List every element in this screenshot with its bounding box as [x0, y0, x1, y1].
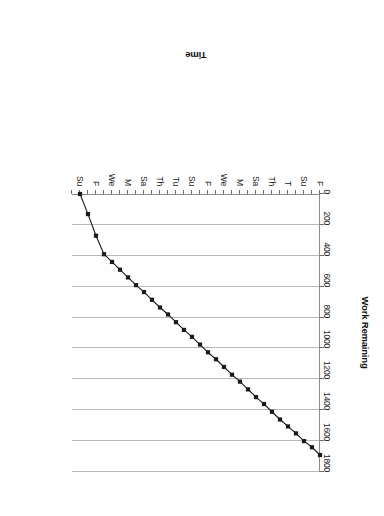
data-point-marker: [134, 283, 138, 287]
value-axis-title: Work Remaining: [358, 194, 372, 472]
category-axis-tick-label: Su: [299, 176, 309, 186]
data-point-marker: [126, 275, 130, 279]
value-axis-tick-label: 400: [322, 242, 332, 256]
data-point-marker: [246, 387, 250, 391]
category-axis-tick-label: Tu: [171, 177, 181, 186]
category-axis-tick-label: Su: [187, 176, 197, 186]
data-point-marker: [318, 453, 322, 457]
value-axis-tick-label: 1400: [322, 392, 332, 410]
category-axis-tick-label: T: [283, 181, 293, 186]
series-line: [80, 194, 320, 455]
category-axis-tick-label: F: [315, 181, 325, 186]
category-axis-title: Time: [72, 50, 320, 61]
data-point-marker: [254, 395, 258, 399]
value-axis-tick-label: 800: [322, 304, 332, 318]
category-axis-tick-label: Th: [267, 176, 277, 186]
category-axis-tick-label: We: [107, 174, 117, 186]
value-axis-tick-label: 1800: [322, 454, 332, 472]
data-point-marker: [230, 373, 234, 377]
data-point-marker: [286, 424, 290, 428]
category-axis-tick-label: M: [123, 179, 133, 186]
data-point-marker: [142, 290, 146, 294]
data-point-marker: [86, 212, 90, 216]
data-point-marker: [78, 192, 82, 196]
data-point-marker: [182, 328, 186, 332]
data-point-marker: [206, 350, 210, 354]
data-point-marker: [174, 320, 178, 324]
data-point-marker: [166, 312, 170, 316]
category-axis-tick-label: Su: [75, 176, 85, 186]
category-axis-tick-label: Sa: [251, 176, 261, 186]
category-axis-tick-label: We: [219, 174, 229, 186]
category-axis-tick-label: Sa: [139, 176, 149, 186]
data-point-marker: [102, 252, 106, 256]
data-point-marker: [198, 342, 202, 346]
rotated-figure-container: 020040060080010001200140016001800 FSuTTh…: [0, 0, 384, 516]
data-point-marker: [118, 268, 122, 272]
value-axis-tick-label: 1000: [322, 330, 332, 348]
data-point-marker: [294, 431, 298, 435]
category-axis-tick-label: F: [91, 181, 101, 186]
burndown-series: [72, 194, 320, 472]
category-axis-tick-label: F: [203, 181, 213, 186]
data-point-marker: [310, 445, 314, 449]
value-axis-tick-label: 1200: [322, 361, 332, 379]
scanned-page: 020040060080010001200140016001800 FSuTTh…: [0, 0, 384, 516]
data-point-marker: [262, 402, 266, 406]
data-point-marker: [302, 439, 306, 443]
data-point-marker: [270, 410, 274, 414]
category-axis-tick-label: M: [235, 179, 245, 186]
data-point-marker: [238, 380, 242, 384]
data-point-marker: [158, 305, 162, 309]
plot-area: 020040060080010001200140016001800 FSuTTh…: [72, 194, 320, 472]
category-axis-title-text: Time: [185, 50, 206, 61]
data-point-marker: [110, 260, 114, 264]
data-point-marker: [94, 234, 98, 238]
burndown-chart: 020040060080010001200140016001800 FSuTTh…: [0, 0, 384, 516]
data-point-marker: [278, 417, 282, 421]
value-axis-tick-label: 0: [322, 189, 332, 194]
data-point-marker: [190, 335, 194, 339]
data-point-marker: [214, 357, 218, 361]
value-axis-tick-label: 1600: [322, 423, 332, 441]
value-axis-title-text: Work Remaining: [359, 297, 370, 369]
value-axis-tick-label: 600: [322, 273, 332, 287]
category-axis-tick-label: Th: [155, 176, 165, 186]
data-point-marker: [222, 365, 226, 369]
value-axis-tick-label: 200: [322, 211, 332, 225]
data-point-marker: [150, 298, 154, 302]
